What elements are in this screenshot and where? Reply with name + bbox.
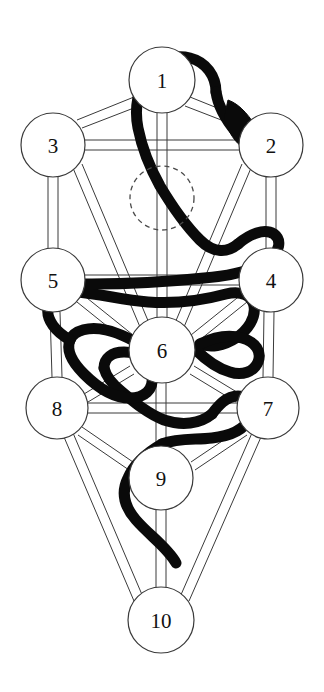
path-1-3 <box>77 97 139 128</box>
sephirah-label-1: 1 <box>157 69 168 93</box>
sephirah-label-7: 7 <box>263 397 274 421</box>
sephirah-label-8: 8 <box>52 397 63 421</box>
sephirah-node-2[interactable]: 2 <box>239 113 303 177</box>
sephirah-node-6[interactable]: 6 <box>129 317 195 383</box>
sephirah-node-9[interactable]: 9 <box>129 446 193 510</box>
sephirah-label-9: 9 <box>156 467 167 491</box>
tree-of-life-diagram: 1 2 3 4 5 6 7 <box>0 0 324 692</box>
sephirah-node-3[interactable]: 3 <box>21 113 85 177</box>
sephirah-label-4: 4 <box>266 269 277 293</box>
sephirah-node-1[interactable]: 1 <box>129 47 195 113</box>
tree-of-life-canvas: 1 2 3 4 5 6 7 <box>0 0 324 692</box>
path-7-10 <box>180 433 261 601</box>
sephirah-node-10[interactable]: 10 <box>128 587 194 653</box>
sephirah-label-6: 6 <box>157 339 168 363</box>
sephirah-label-10: 10 <box>151 609 172 633</box>
sephirah-label-3: 3 <box>48 134 59 158</box>
sephirah-label-2: 2 <box>266 134 277 158</box>
path-3-2 <box>85 140 239 150</box>
sephirah-node-4[interactable]: 4 <box>239 248 303 312</box>
path-4-7 <box>263 312 274 377</box>
sephirah-label-5: 5 <box>48 269 59 293</box>
sephirah-node-7[interactable]: 7 <box>237 377 299 439</box>
sephirah-node-8[interactable]: 8 <box>26 377 88 439</box>
path-3-5 <box>48 177 58 248</box>
sephirah-node-5[interactable]: 5 <box>21 248 85 312</box>
